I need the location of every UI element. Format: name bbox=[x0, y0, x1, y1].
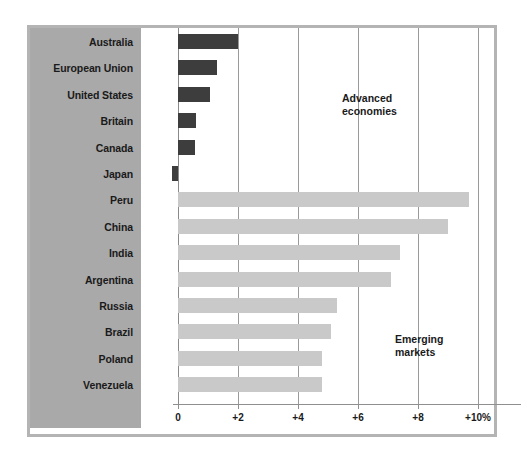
category-label-japan: Japan bbox=[103, 167, 133, 181]
bar-poland bbox=[178, 351, 322, 366]
bar-canada bbox=[178, 140, 195, 155]
tick-mark-3 bbox=[358, 404, 359, 409]
category-label-india: India bbox=[109, 246, 133, 260]
category-label-china: China bbox=[104, 220, 133, 234]
tick-mark-5 bbox=[478, 404, 479, 409]
annotation-emerging-line1: Emerging bbox=[395, 333, 443, 346]
x-axis-tick-label: +4 bbox=[292, 412, 303, 423]
bar-argentina bbox=[178, 272, 391, 287]
bar-india bbox=[178, 245, 400, 260]
category-label-venezuela: Venezuela bbox=[83, 378, 133, 392]
category-label-poland: Poland bbox=[99, 352, 133, 366]
bar-brazil bbox=[178, 324, 331, 339]
bar-european-union bbox=[178, 60, 217, 75]
category-label-russia: Russia bbox=[99, 299, 133, 313]
x-axis-line bbox=[173, 404, 521, 405]
category-label-argentina: Argentina bbox=[85, 273, 133, 287]
x-axis-tick-label: +10% bbox=[465, 412, 491, 423]
category-label-australia: Australia bbox=[89, 35, 133, 49]
category-label-panel: AustraliaEuropean UnionUnited StatesBrit… bbox=[30, 28, 141, 428]
bar-venezuela bbox=[178, 377, 322, 392]
category-label-peru: Peru bbox=[110, 193, 133, 207]
category-label-united-states: United States bbox=[67, 88, 133, 102]
x-axis-tick-label: +2 bbox=[232, 412, 243, 423]
category-label-european-union: European Union bbox=[53, 61, 133, 75]
annotation-emerging-markets: Emerging markets bbox=[395, 333, 443, 359]
annotation-advanced-line1: Advanced bbox=[342, 92, 397, 105]
annotation-advanced-line2: economies bbox=[342, 105, 397, 118]
tick-mark-0 bbox=[178, 404, 179, 409]
bar-australia bbox=[178, 34, 238, 49]
category-label-brazil: Brazil bbox=[105, 325, 133, 339]
bar-china bbox=[178, 219, 448, 234]
tick-mark-1 bbox=[238, 404, 239, 409]
plot-area: 0+2+4+6+8+10% Advanced economies Emergin… bbox=[141, 28, 494, 434]
tick-mark-4 bbox=[418, 404, 419, 409]
x-axis-tick-label: +8 bbox=[412, 412, 423, 423]
category-label-canada: Canada bbox=[96, 141, 133, 155]
annotation-advanced-economies: Advanced economies bbox=[342, 92, 397, 118]
category-label-britain: Britain bbox=[100, 114, 133, 128]
bar-peru bbox=[178, 192, 469, 207]
bar-united-states bbox=[178, 87, 210, 102]
bar-russia bbox=[178, 298, 337, 313]
tick-mark-2 bbox=[298, 404, 299, 409]
x-axis-tick-label: 0 bbox=[175, 412, 181, 423]
category-label-list: AustraliaEuropean UnionUnited StatesBrit… bbox=[30, 28, 141, 404]
chart-frame: AustraliaEuropean UnionUnited StatesBrit… bbox=[27, 25, 497, 437]
bar-japan bbox=[172, 166, 178, 181]
bar-britain bbox=[178, 113, 196, 128]
x-axis-tick-label: +6 bbox=[352, 412, 363, 423]
annotation-emerging-line2: markets bbox=[395, 346, 443, 359]
